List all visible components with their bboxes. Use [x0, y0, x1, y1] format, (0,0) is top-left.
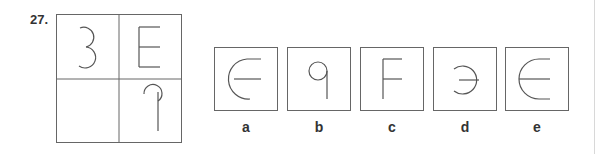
option-b-glyph-icon	[287, 47, 351, 111]
option-b-label: b	[287, 119, 351, 135]
option-e-box[interactable]	[505, 47, 569, 111]
option-d-glyph-icon	[433, 47, 497, 111]
option-b-box[interactable]	[287, 47, 351, 111]
question-number: 27.	[30, 12, 48, 27]
option-e-label: e	[505, 119, 569, 135]
glyph-e-icon	[139, 27, 160, 67]
option-a-label: a	[214, 119, 278, 135]
glyph-three-icon	[79, 27, 96, 68]
option-c-label: c	[360, 119, 424, 135]
glyph-mirrored-nine-icon	[144, 85, 162, 131]
option-a-glyph-icon	[214, 47, 278, 111]
option-c-box[interactable]	[360, 47, 424, 111]
question-matrix	[56, 14, 182, 143]
option-d-box[interactable]	[433, 47, 497, 111]
option-a-box[interactable]	[214, 47, 278, 111]
matrix-svg	[56, 14, 182, 143]
option-c-glyph-icon	[360, 47, 424, 111]
page-edge-divider	[594, 0, 595, 154]
option-e-glyph-icon	[505, 47, 569, 111]
option-d-label: d	[433, 119, 497, 135]
